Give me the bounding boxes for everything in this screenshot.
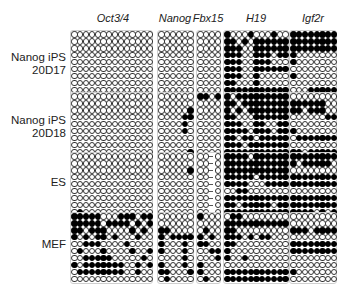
unmethylated-cpg-dot	[282, 213, 288, 219]
unmethylated-cpg-dot	[147, 66, 153, 72]
unmethylated-cpg-dot	[215, 269, 221, 275]
unmethylated-cpg-dot	[282, 241, 288, 247]
unmethylated-cpg-dot	[215, 188, 221, 194]
methylated-cpg-dot	[331, 181, 337, 187]
unmethylated-cpg-dot	[147, 195, 153, 201]
unmethylated-cpg-dot	[147, 255, 153, 261]
unmethylated-cpg-dot	[331, 128, 337, 134]
methylated-cpg-dot	[215, 255, 221, 261]
unmethylated-cpg-dot	[187, 100, 193, 106]
unmethylated-cpg-dot	[147, 241, 153, 247]
unmethylated-cpg-dot	[147, 121, 153, 127]
unmethylated-cpg-dot	[331, 160, 337, 166]
unmethylated-cpg-dot	[282, 234, 288, 240]
unmethylated-cpg-dot	[271, 234, 277, 240]
missing-cpg-mark	[209, 167, 213, 171]
methylated-cpg-dot	[331, 202, 337, 208]
methylated-cpg-dot	[147, 213, 153, 219]
unmethylated-cpg-dot	[331, 255, 337, 261]
unmethylated-cpg-dot	[271, 121, 277, 127]
missing-cpg-mark	[209, 195, 213, 199]
unmethylated-cpg-dot	[215, 153, 221, 159]
unmethylated-cpg-dot	[215, 59, 221, 65]
methylated-cpg-dot	[187, 167, 193, 173]
panel-nanog-sample-0	[157, 30, 194, 102]
methylated-cpg-dot	[282, 220, 288, 226]
unmethylated-cpg-dot	[147, 227, 153, 233]
unmethylated-cpg-dot	[215, 142, 221, 148]
missing-cpg-mark	[209, 174, 213, 178]
methylated-cpg-dot	[282, 128, 288, 134]
unmethylated-cpg-dot	[282, 73, 288, 79]
missing-cpg-mark	[209, 181, 213, 185]
unmethylated-cpg-dot	[187, 128, 193, 134]
methylated-cpg-dot	[331, 45, 337, 51]
unmethylated-cpg-dot	[187, 188, 193, 194]
methylated-cpg-dot	[215, 93, 221, 99]
unmethylated-cpg-dot	[187, 142, 193, 148]
sample-label-nanog-ips-20d18: Nanog iPS 20D18	[0, 114, 66, 140]
methylated-cpg-dot	[282, 153, 288, 159]
methylated-cpg-dot	[282, 202, 288, 208]
sample-label-line1: Nanog iPS	[0, 114, 66, 127]
methylated-cpg-dot	[331, 114, 337, 120]
methylated-cpg-dot	[282, 276, 288, 282]
methylated-cpg-dot	[282, 135, 288, 141]
unmethylated-cpg-dot	[215, 135, 221, 141]
unmethylated-cpg-dot	[215, 276, 221, 282]
unmethylated-cpg-dot	[147, 234, 153, 240]
methylated-cpg-dot	[187, 114, 193, 120]
unmethylated-cpg-dot	[187, 73, 193, 79]
unmethylated-cpg-dot	[282, 59, 288, 65]
sample-label-es: ES	[0, 176, 66, 189]
unmethylated-cpg-dot	[282, 262, 288, 268]
unmethylated-cpg-dot	[118, 121, 124, 127]
sample-label-line1: Nanog iPS	[0, 51, 66, 64]
unmethylated-cpg-dot	[331, 73, 337, 79]
unmethylated-cpg-dot	[147, 153, 153, 159]
unmethylated-cpg-dot	[187, 80, 193, 86]
unmethylated-cpg-dot	[118, 241, 124, 247]
unmethylated-cpg-dot	[215, 38, 221, 44]
gene-label-h19: H19	[224, 12, 288, 24]
unmethylated-cpg-dot	[118, 114, 124, 120]
unmethylated-cpg-dot	[215, 167, 221, 173]
panel-fbx15-sample-3	[196, 212, 221, 284]
unmethylated-cpg-dot	[187, 202, 193, 208]
sample-label-nanog-ips-20d17: Nanog iPS 20D17	[0, 51, 66, 77]
unmethylated-cpg-dot	[331, 59, 337, 65]
unmethylated-cpg-dot	[147, 93, 153, 99]
unmethylated-cpg-dot	[147, 181, 153, 187]
unmethylated-cpg-dot	[118, 248, 124, 254]
methylated-cpg-dot	[147, 262, 153, 268]
unmethylated-cpg-dot	[331, 66, 337, 72]
unmethylated-cpg-dot	[118, 234, 124, 240]
unmethylated-cpg-dot	[215, 121, 221, 127]
unmethylated-cpg-dot	[147, 80, 153, 86]
unmethylated-cpg-dot	[215, 107, 221, 113]
sample-label-line2: 20D17	[0, 64, 66, 77]
unmethylated-cpg-dot	[187, 93, 193, 99]
unmethylated-cpg-dot	[118, 188, 124, 194]
methylated-cpg-dot	[271, 181, 277, 187]
unmethylated-cpg-dot	[147, 135, 153, 141]
unmethylated-cpg-dot	[215, 66, 221, 72]
unmethylated-cpg-dot	[215, 73, 221, 79]
panel-igf2r-sample-0	[289, 30, 337, 102]
gene-label-igf2r: Igf2r	[290, 12, 336, 24]
methylated-cpg-dot	[331, 31, 337, 37]
methylated-cpg-dot	[147, 248, 153, 254]
unmethylated-cpg-dot	[282, 188, 288, 194]
unmethylated-cpg-dot	[147, 276, 153, 282]
missing-cpg-mark	[209, 188, 213, 192]
methylated-cpg-dot	[282, 114, 288, 120]
unmethylated-cpg-dot	[187, 31, 193, 37]
methylated-cpg-dot	[282, 142, 288, 148]
unmethylated-cpg-dot	[147, 107, 153, 113]
unmethylated-cpg-dot	[187, 220, 193, 226]
methylated-cpg-dot	[282, 269, 288, 275]
unmethylated-cpg-dot	[271, 59, 277, 65]
sample-label-line1: MEF	[0, 238, 66, 251]
unmethylated-cpg-dot	[187, 66, 193, 72]
methylated-cpg-dot	[282, 167, 288, 173]
